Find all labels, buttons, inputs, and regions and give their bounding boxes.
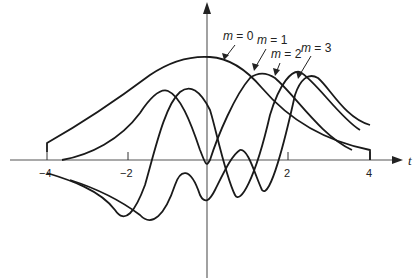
tick-label-4: 4	[366, 167, 372, 179]
tick-label-2: 2	[284, 167, 290, 179]
svg-text:m = 3: m = 3	[301, 41, 332, 55]
chart: −4 −2 2 4 t m = 0 m = 1 m = 2 m = 3	[0, 0, 417, 279]
y-axis-arrow-icon	[203, 2, 211, 14]
svg-text:m = 2: m = 2	[271, 47, 302, 61]
svg-text:m = 1: m = 1	[257, 33, 288, 47]
label-m0: m = 0	[222, 29, 254, 60]
svg-text:m = 0: m = 0	[223, 29, 254, 43]
x-axis-arrow-icon	[392, 156, 403, 164]
curve-m2	[47, 72, 360, 217]
tick-label-neg2: −2	[120, 167, 133, 179]
x-axis-label: t	[408, 153, 412, 168]
